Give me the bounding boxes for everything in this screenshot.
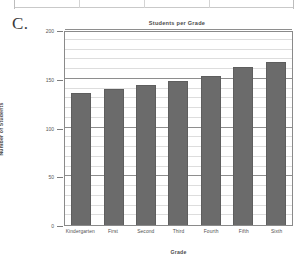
bar-series: [65, 32, 292, 225]
chart-title: Students per Grade: [62, 20, 292, 26]
x-axis-tick-label: Fourth: [195, 229, 227, 234]
bar: [136, 85, 156, 225]
bar: [168, 81, 188, 225]
bar: [233, 67, 253, 225]
y-axis: Number of Students 050100150200: [0, 31, 64, 226]
y-axis-tick-mark: [57, 31, 63, 32]
bar: [104, 89, 124, 226]
y-axis-tick-mark: [57, 226, 63, 227]
y-axis-tick-mark: [57, 177, 63, 178]
x-axis-tick-label: Second: [130, 229, 162, 234]
major-gridline: [65, 29, 292, 30]
y-axis-tick-label: 150: [46, 77, 54, 83]
x-axis-tick-label: Sixth: [261, 229, 293, 234]
y-axis-tick-mark: [57, 80, 63, 81]
bar: [71, 93, 91, 225]
x-axis-tick-label: First: [97, 229, 129, 234]
y-axis-tick-label: 50: [48, 174, 54, 180]
x-axis-tick-labels: KindergartenFirstSecondThirdFourthFifthS…: [64, 229, 293, 241]
x-axis-tick-label: Fifth: [228, 229, 260, 234]
y-axis-tick-label: 0: [51, 223, 54, 229]
bar: [266, 62, 286, 225]
x-axis-tick-label: Kindergarten: [64, 229, 96, 234]
y-axis-tick-mark: [57, 129, 63, 130]
plot-area: [64, 31, 293, 226]
x-axis-tick-label: Third: [162, 229, 194, 234]
y-axis-title: Number of Students: [0, 102, 4, 155]
bar: [201, 76, 221, 225]
bar-chart: Students per Grade Number of Students 05…: [0, 0, 308, 270]
y-axis-tick-label: 100: [46, 126, 54, 132]
x-axis-title: Grade: [64, 249, 293, 255]
y-axis-tick-label: 200: [46, 28, 54, 34]
